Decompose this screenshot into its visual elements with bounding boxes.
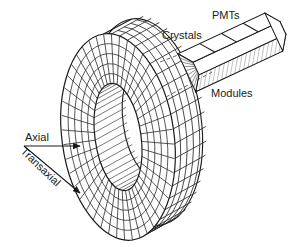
modules-label: Modules [211,87,253,99]
detector-module-block [178,9,292,92]
pmts-label: PMTs [212,9,240,21]
diagram-svg: PMTs Crystals Modules Axial Transaxial [0,0,292,247]
axial-label: Axial [25,131,49,143]
crystals-label: Crystals [162,29,202,41]
transaxial-label: Transaxial [19,145,64,189]
detector-ring [46,10,220,247]
figure-canvas: PMTs Crystals Modules Axial Transaxial [0,0,292,247]
